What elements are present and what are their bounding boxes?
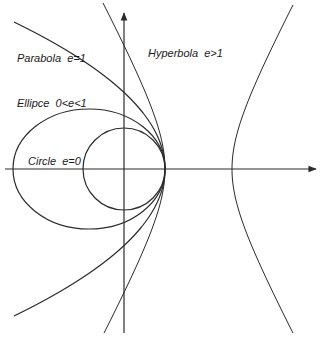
ellipse-label: Ellipce 0<e<1 bbox=[17, 97, 87, 109]
conic-sections-diagram: Parabola e=1 Ellipce 0<e<1 Circle e=0 Hy… bbox=[0, 0, 320, 348]
parabola-label: Parabola e=1 bbox=[17, 52, 86, 64]
hyperbola-label: Hyperbola e>1 bbox=[148, 47, 223, 59]
circle-label: Circle e=0 bbox=[28, 155, 82, 167]
